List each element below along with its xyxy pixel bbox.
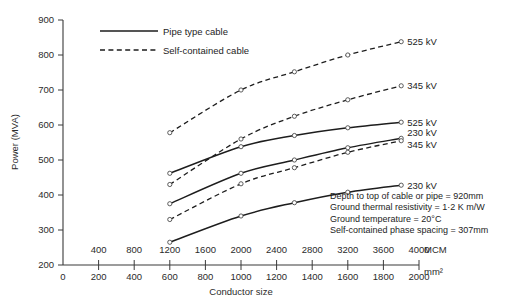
x-tick-label-mm2: 400 <box>126 271 142 282</box>
data-point-marker <box>292 133 296 137</box>
x-tick-label-mm2: 800 <box>197 271 213 282</box>
x-tick-label-mcm: 3200 <box>337 244 358 255</box>
data-point-marker <box>346 146 350 150</box>
data-point-marker <box>292 158 296 162</box>
annotation-line: Depth to top of cable or pipe = 920mm <box>330 191 483 201</box>
x-tick-label-mcm: 800 <box>126 244 142 255</box>
x-tick-label-mm2: 1200 <box>266 271 287 282</box>
data-point-marker <box>239 182 243 186</box>
legend-label-self-contained: Self-contained cable <box>163 45 249 56</box>
x-tick-label-mm2: 1000 <box>230 271 251 282</box>
series-end-label: 525 kV <box>407 117 437 128</box>
annotations-block: Depth to top of cable or pipe = 920mmGro… <box>330 191 488 235</box>
data-point-marker <box>346 98 350 102</box>
data-point-marker <box>168 182 172 186</box>
data-point-marker <box>239 171 243 175</box>
legend-label-pipe-type: Pipe type cable <box>163 26 228 37</box>
series-end-label: 230 kV <box>407 127 437 138</box>
data-point-marker <box>239 214 243 218</box>
series-solid-525-kv: 525 kV <box>168 117 438 176</box>
data-point-marker <box>346 53 350 57</box>
annotation-line: Ground temperature = 20°C <box>330 214 442 224</box>
x-axis-ticks-mm2: 0200400600800100012001400160018002000 <box>60 265 429 282</box>
x-tick-label-mcm: 2000 <box>230 244 251 255</box>
x-tick-label-mm2: 200 <box>91 271 107 282</box>
x-tick-label-mm2: 1400 <box>302 271 323 282</box>
y-tick-label: 900 <box>38 14 54 25</box>
annotation-line: Self-contained phase spacing = 307mm <box>330 225 488 235</box>
x-tick-label-mcm: 1600 <box>195 244 216 255</box>
y-tick-label: 800 <box>38 49 54 60</box>
data-point-marker <box>399 139 403 143</box>
x-tick-label-mm2: 1600 <box>337 271 358 282</box>
x-tick-label-mcm: 2400 <box>266 244 287 255</box>
x-tick-label-mcm: 3600 <box>373 244 394 255</box>
data-point-marker <box>168 240 172 244</box>
x-tick-label-mm2: 600 <box>162 271 178 282</box>
legend: Pipe type cable Self-contained cable <box>100 26 249 56</box>
data-point-marker <box>292 166 296 170</box>
data-point-marker <box>292 114 296 118</box>
series-end-label: 345 kV <box>407 80 437 91</box>
data-point-marker <box>346 126 350 130</box>
x-tick-label-mcm: 1200 <box>159 244 180 255</box>
series-end-label: 525 kV <box>407 36 437 47</box>
y-tick-label: 300 <box>38 224 54 235</box>
y-tick-label: 500 <box>38 154 54 165</box>
y-axis-ticks: 200300400500600700800900 <box>38 14 63 270</box>
data-point-marker <box>168 131 172 135</box>
data-point-marker <box>399 120 403 124</box>
annotation-line: Ground thermal resistivity = 1·2 K m/W <box>330 202 485 212</box>
data-point-marker <box>168 217 172 221</box>
x-tick-label-mcm: 400 <box>91 244 107 255</box>
data-point-marker <box>292 70 296 74</box>
x-axis-title: Conductor size <box>209 286 272 297</box>
data-point-marker <box>168 171 172 175</box>
data-point-marker <box>239 145 243 149</box>
x-unit-label-mcm: MCM <box>424 244 447 255</box>
data-point-marker <box>399 40 403 44</box>
data-point-marker <box>399 183 403 187</box>
data-point-marker <box>168 202 172 206</box>
y-tick-label: 600 <box>38 119 54 130</box>
y-tick-label: 700 <box>38 84 54 95</box>
x-unit-label-mm2: mm² <box>424 266 443 277</box>
chart-container: 200300400500600700800900 400800120016002… <box>0 0 523 308</box>
series-end-label: 345 kV <box>407 139 437 150</box>
chart-svg: 200300400500600700800900 400800120016002… <box>0 0 523 308</box>
x-axis-ticks-mcm: 40080012001600200024002800320036004000 <box>91 244 430 265</box>
y-axis-title: Power (MVA) <box>9 114 20 170</box>
y-tick-label: 200 <box>38 259 54 270</box>
y-tick-label: 400 <box>38 189 54 200</box>
data-point-marker <box>346 150 350 154</box>
x-tick-label-mm2: 1800 <box>373 271 394 282</box>
data-point-marker <box>239 137 243 141</box>
x-tick-label-mcm: 2800 <box>302 244 323 255</box>
data-point-marker <box>239 88 243 92</box>
data-point-marker <box>399 84 403 88</box>
x-tick-label-mm2: 0 <box>60 271 65 282</box>
series-end-label: 230 kV <box>407 180 437 191</box>
data-point-marker <box>292 201 296 205</box>
